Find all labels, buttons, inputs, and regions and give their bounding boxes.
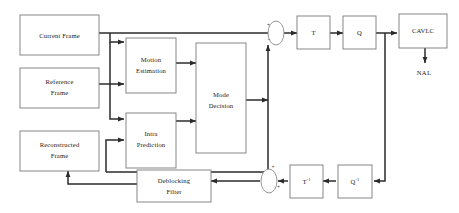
wire-reconstructed-to-intra-prediction [106,140,124,172]
encoder-block-diagram: Current Frame Reference Frame Reconstruc… [0,0,459,213]
block-reference-frame: Reference Frame [20,68,99,108]
block-deblocking-filter: Deblocking Filter [137,170,211,202]
inverse-transform-superscript: -1 [307,177,311,182]
bottom-sum-ellipse [261,169,277,193]
summing-junction-top: + - [267,21,284,45]
motion-estimation-box [126,38,176,93]
block-inverse-transform: T-1 [290,165,323,198]
block-motion-estimation: Motion Estimation [126,38,176,93]
deblocking-filter-box [137,170,211,202]
top-sum-minus-sign: - [268,36,270,42]
diagram-canvas: Current Frame Reference Frame Reconstruc… [0,0,459,213]
inverse-quantizer-superscript: -1 [355,177,359,182]
nal-output-label: NAL [417,69,431,76]
current-frame-label: Current Frame [39,32,80,39]
block-mode-decision: Mode Decision [196,43,246,153]
reference-frame-label-line1: Reference [45,78,73,85]
deblocking-filter-label-line1: Deblocking [158,177,191,184]
block-reconstructed-frame: Reconstructed Frame [20,131,99,171]
summing-junction-bottom: + + [261,164,280,193]
wire-current-frame-to-motion-estimation [110,33,124,42]
block-inverse-quantizer: Q-1 [338,165,372,198]
block-cavlc: CAVLC [399,14,447,48]
intra-prediction-label-line2: Prediction [137,141,166,148]
motion-estimation-label-line2: Estimation [136,67,167,74]
deblocking-filter-label-line2: Filter [166,188,182,195]
block-transform: T [297,16,330,49]
bottom-sum-plus-sign: + [272,164,275,170]
top-sum-plus-sign: + [267,22,270,28]
reconstructed-frame-label-line1: Reconstructed [40,141,80,148]
block-current-frame: Current Frame [20,15,99,55]
intra-prediction-label-line1: Intra [144,130,157,137]
block-quantizer: Q [343,16,376,49]
reference-frame-label-line2: Frame [51,89,69,96]
motion-estimation-label-line1: Motion [141,56,162,63]
block-intra-prediction: Intra Prediction [126,113,176,168]
transform-label: T [311,29,315,36]
wire-quantizer-to-inverse-quantizer [374,33,385,181]
reconstructed-frame-label-line2: Frame [51,152,69,159]
mode-decision-box [196,43,246,153]
bottom-sum-plus-right-sign: + [277,184,280,190]
cavlc-label: CAVLC [412,27,435,34]
wire-current-frame-to-intra-prediction [110,42,124,119]
mode-decision-label-line2: Decision [209,102,234,109]
mode-decision-label-line1: Mode [213,91,229,98]
top-sum-ellipse [268,21,284,45]
wire-deblocking-filter-to-reconstructed-frame [68,171,137,184]
quantizer-label: Q [357,29,362,36]
